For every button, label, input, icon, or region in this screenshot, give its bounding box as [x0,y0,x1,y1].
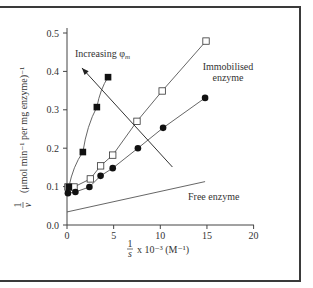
x-tick-label: 10 [155,230,165,241]
y-tick-label: 0.5 [47,28,60,39]
y-tick-label: 0.4 [47,66,60,77]
x-axis-title: 1 s x 10⁻³ (M⁻¹) [127,238,189,259]
data-point-filled-circle [86,184,93,191]
series-layer [65,38,210,212]
data-point-open-square [203,38,209,44]
x-tick-label: 0 [65,230,70,241]
immobilised-label-line2: enzyme [212,72,244,83]
y-tick-label: 0.0 [47,220,60,231]
y-tick-label: 0.1 [47,181,60,192]
arrow-shaft [82,68,173,167]
data-point-open-square [97,163,103,169]
immobilised-label-line1: Immobilised [203,61,254,72]
data-point-filled-circle [160,125,167,132]
lineweaver-burk-chart: 0.00.10.20.30.40.5 05101520 Increasing φ… [0,0,313,288]
increasing-phi-arrow [82,68,173,167]
data-point-open-square [87,176,93,182]
svg-text:v: v [22,202,33,207]
data-point-filled-square [66,184,73,191]
data-point-filled-circle [202,95,209,102]
y-tick-label: 0.3 [47,104,60,115]
data-point-open-square [134,118,140,124]
y-axis-title: 1 v (μmol min⁻¹ per mg enzyme)⁻¹ [12,67,33,208]
data-point-filled-circle [65,190,72,197]
increasing-phi-label: Increasing φm [75,48,130,61]
data-point-filled-circle [109,165,116,172]
free-enzyme-label: Free enzyme [188,191,240,202]
series-filled-square [66,74,112,190]
x-tick-label: 15 [202,230,212,241]
x-ticks: 05101520 [65,225,259,241]
y-tick-label: 0.2 [47,143,60,154]
series-line [69,77,108,187]
series-open-square [65,38,209,190]
series-line [68,41,206,187]
data-point-filled-circle [135,145,142,152]
data-point-open-square [159,88,165,94]
svg-text:(μmol min⁻¹ per mg enzyme)⁻¹: (μmol min⁻¹ per mg enzyme)⁻¹ [18,67,30,193]
data-point-filled-square [105,74,112,81]
svg-text:s: s [128,248,132,259]
data-point-filled-circle [72,189,79,196]
x-tick-label: 20 [249,230,259,241]
x-tick-label: 5 [111,230,116,241]
data-point-filled-circle [97,173,104,180]
y-ticks: 0.00.10.20.30.40.5 [47,28,68,231]
data-point-filled-square [94,104,101,111]
data-point-open-square [110,152,116,158]
svg-text:x 10⁻³ (M⁻¹): x 10⁻³ (M⁻¹) [137,244,189,256]
data-point-filled-square [80,149,87,156]
